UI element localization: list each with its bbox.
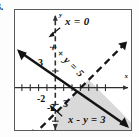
annotation-x-equals-0: x = 0 — [65, 15, 90, 27]
x-axis-label: x — [125, 72, 129, 80]
leader-x-equals-zero — [48, 28, 60, 38]
tick-label-y-3: 3 — [38, 57, 43, 68]
tick-label-x-neg2: -2 — [37, 93, 45, 104]
annotation-x-minus-y-equals-3: x - y = 3 — [68, 114, 106, 125]
exercise-number: 3. — [0, 1, 3, 12]
plot-frame: x y x = 0 x + y = 5 x - y = 3 3 -2 -2 3 — [14, 9, 132, 131]
tick-label-x-3: 3 — [63, 98, 68, 109]
tick-label-y-neg2: -2 — [47, 102, 55, 113]
y-axis-label: y — [59, 11, 62, 19]
figure-panel: 3. — [0, 0, 139, 137]
